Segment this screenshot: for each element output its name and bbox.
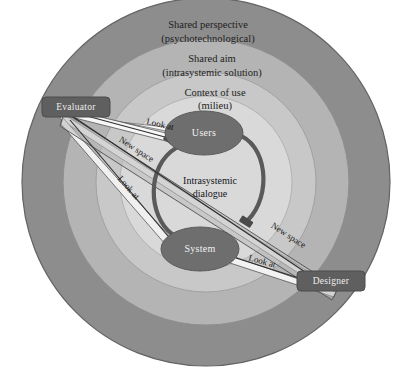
center-label-line1: Intrasystemic: [183, 175, 237, 186]
ring-middle-label-line2: (intrasystemic solution): [162, 67, 262, 79]
ring-middle-label-line1: Shared aim: [188, 53, 236, 64]
node-evaluator[interactable]: Evaluator: [42, 97, 110, 117]
node-designer[interactable]: Designer: [297, 271, 365, 291]
shared-perspective-diagram: Shared perspective (psychotechnological)…: [0, 0, 413, 367]
ring-inner-label-line1: Context of use: [184, 87, 246, 98]
system-label: System: [184, 243, 215, 254]
ring-outer-label-line2: (psychotechnological): [161, 33, 255, 45]
designer-label: Designer: [313, 276, 350, 286]
node-users[interactable]: Users: [165, 111, 243, 155]
center-label-line2: dialogue: [193, 188, 228, 199]
evaluator-label: Evaluator: [56, 102, 96, 112]
ring-outer-label-line1: Shared perspective: [168, 19, 248, 30]
node-system[interactable]: System: [161, 227, 239, 271]
diagram-canvas: Shared perspective (psychotechnological)…: [0, 0, 413, 367]
users-label: Users: [192, 127, 216, 138]
